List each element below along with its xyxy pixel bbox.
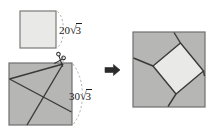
square-dissection-figure: 20√3 30√3 — [0, 0, 214, 131]
small-square — [20, 11, 56, 48]
small-square-radicand: 3 — [76, 23, 83, 36]
large-square-group — [9, 63, 72, 125]
result-cut-line-2 — [204, 71, 205, 76]
small-square-coefficient: 20 — [59, 24, 70, 36]
large-square — [9, 63, 72, 125]
large-square-coefficient: 30 — [69, 90, 80, 102]
large-square-dimension-label: 30√3 — [69, 90, 92, 102]
diagram-canvas — [0, 0, 214, 131]
right-arrow-icon — [105, 65, 120, 76]
large-square-radicand: 3 — [86, 89, 93, 102]
small-square-dimension-label: 20√3 — [59, 24, 82, 36]
small-square-group — [20, 11, 56, 48]
result-square-group — [133, 32, 205, 107]
